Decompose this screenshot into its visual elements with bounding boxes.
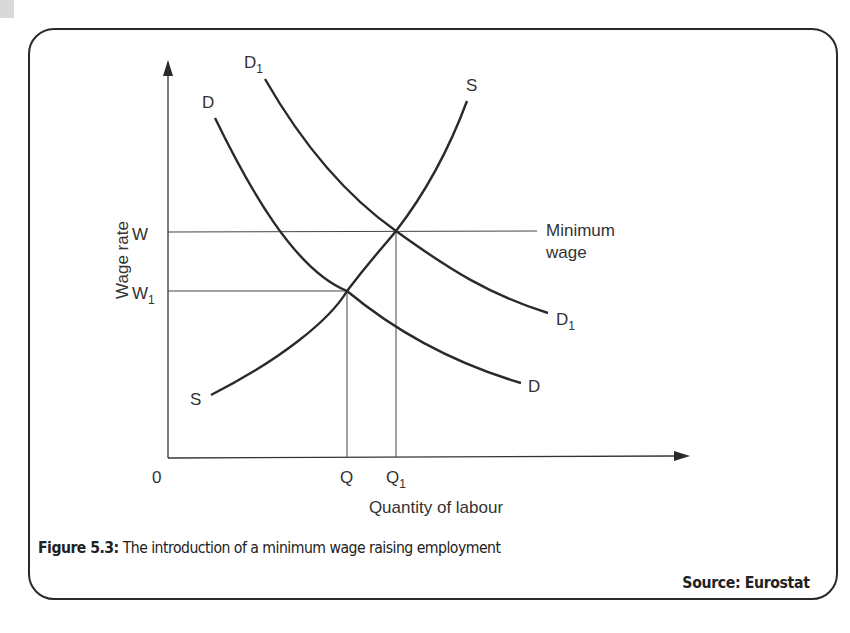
- minimum-wage-line: [168, 231, 537, 232]
- q-label: Q: [340, 468, 353, 487]
- figure-caption-label: Figure 5.3:: [38, 538, 119, 557]
- figure-source: Source: Eurostat: [683, 573, 810, 592]
- d1-bottom-label: D1: [556, 310, 575, 333]
- y-axis-arrow-icon: [163, 60, 173, 76]
- minimum-wage-label-line2: wage: [545, 243, 587, 262]
- x-axis-label: Quantity of labour: [369, 498, 504, 517]
- d1-top-label: D1: [244, 53, 263, 76]
- x-axis-arrow-icon: [674, 451, 690, 461]
- s-top-label: S: [466, 76, 477, 95]
- w-label: W: [132, 225, 148, 244]
- x-axis: [168, 456, 676, 458]
- d-bottom-label: D: [528, 377, 540, 396]
- origin-label: 0: [152, 468, 161, 487]
- y-axis-label: Wage rate: [113, 221, 132, 299]
- figure-caption: Figure 5.3: The introduction of a minimu…: [38, 538, 500, 557]
- demand-curve-d: [215, 118, 521, 383]
- supply-curve-s: [211, 101, 467, 395]
- w1-label: W1: [132, 284, 155, 307]
- d-top-label: D: [202, 93, 214, 112]
- s-bottom-label: S: [190, 390, 201, 409]
- q1-label: Q1: [386, 468, 406, 491]
- figure-caption-text: The introduction of a minimum wage raisi…: [119, 538, 501, 557]
- demand-curve-d1: [265, 79, 548, 313]
- minimum-wage-label-line1: Minimum: [546, 221, 615, 240]
